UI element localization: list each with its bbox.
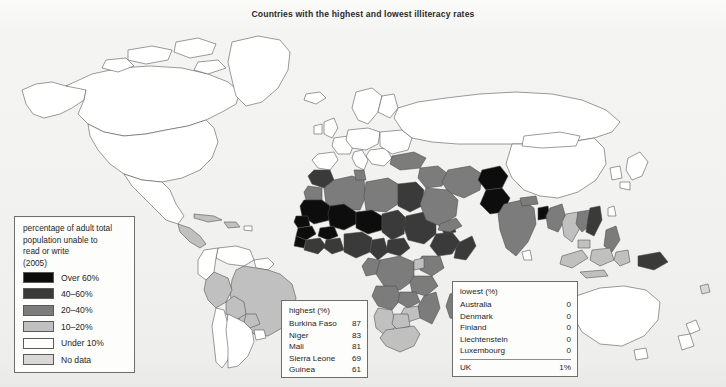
table-row: Australia 0 [460,299,571,311]
table-row: Finland 0 [460,322,571,334]
country-value: 61 [352,364,361,376]
legend-swatch-40-60 [23,288,54,299]
country-scandinavia [352,88,382,124]
country-name: Niger [289,330,308,342]
table-lowest-rates: lowest (%) Australia 0 Denmark 0 Finland… [452,281,578,377]
country-iceland [304,92,326,104]
country-senegal [294,216,310,228]
legend-label-no-data: No data [61,355,91,365]
table-lowest-header: lowest (%) [460,287,571,296]
country-canada-arctic-1 [128,46,172,64]
country-russia [394,92,620,144]
country-value: 0 [566,299,571,311]
legend-item-20-40: 20–40% [23,302,127,318]
legend-label-under-10: Under 10% [61,338,104,348]
legend-label-10-20: 10–20% [61,322,93,332]
country-tasmania [634,348,648,360]
country-name: Australia [460,299,492,311]
country-zambia [398,292,420,308]
country-egypt [398,182,424,212]
country-japan [626,152,648,180]
map-legend: percentage of adult total population una… [14,216,135,373]
country-pacific-islands [700,284,710,294]
country-name: Burkina Faso [289,318,337,330]
legend-label-over-60: Over 60% [61,273,99,283]
table-row: Denmark 0 [460,311,571,323]
country-turkey [390,152,426,170]
table-row: Sierra Leone 69 [289,353,361,365]
country-sri-lanka [522,250,532,260]
country-value: 87 [352,318,361,330]
country-indonesia-java [580,270,608,278]
legend-heading: percentage of adult total population una… [23,223,127,269]
country-italy [352,150,368,170]
country-germany-poland [346,128,380,150]
legend-item-40-60: 40–60% [23,286,127,302]
legend-heading-year: (2005) [23,258,127,270]
legend-heading-line-2: population unable to [23,235,127,247]
table-row-footer: UK 1% [460,362,571,374]
table-row: Guinea 61 [289,364,361,376]
table-highest-rates: highest (%) Burkina Faso 87 Niger 83 Mal… [281,300,368,378]
legend-swatch-under-10 [23,338,54,349]
country-uruguay [254,330,266,340]
legend-label-20-40: 20–40% [61,305,93,315]
legend-heading-line-1: percentage of adult total [23,223,127,235]
country-chad [382,210,406,240]
country-mozambique [418,292,440,324]
legend-item-under-10: Under 10% [23,335,127,351]
legend-swatch-over-60 [23,272,54,283]
country-central-african-republic [386,238,410,256]
country-central-america [178,224,206,248]
country-value: 83 [352,330,361,342]
country-nigeria [344,232,372,258]
country-indonesia-sumatra [560,250,588,268]
country-japan-south [620,182,630,190]
country-korea [610,166,622,180]
table-row: Burkina Faso 87 [289,318,361,330]
country-afghanistan [478,166,508,190]
country-hispaniola [224,222,240,228]
table-row: Luxembourg 0 [460,345,571,357]
country-papua-new-guinea [638,252,668,270]
country-greenland [228,36,290,106]
illiteracy-world-map-figure: Countries with the highest and lowest il… [0,0,726,387]
country-australia [572,286,660,346]
legend-item-no-data: No data [23,351,127,367]
country-canada [66,66,240,136]
country-name: Sierra Leone [289,353,335,365]
legend-swatch-20-40 [23,305,54,316]
legend-swatch-no-data [23,354,54,365]
country-value: 0 [566,311,571,323]
country-iberia [312,152,338,170]
country-libya [364,178,398,212]
country-ivory-coast [304,238,326,254]
country-dr-congo [376,256,414,290]
country-malaysia [578,240,590,248]
table-highest-header: highest (%) [289,306,361,315]
legend-item-10-20: 10–20% [23,319,127,335]
country-canada-arctic-2 [174,38,216,58]
country-western-sahara [304,186,322,200]
country-indonesia-sulawesi [614,250,630,266]
country-indonesia-borneo [590,248,614,266]
country-uganda [414,258,424,270]
country-name: Luxembourg [460,345,505,357]
table-row: Mali 81 [289,341,361,353]
country-south-africa [380,326,420,352]
table-row: Liechtenstein 0 [460,334,571,346]
country-name: Guinea [289,364,315,376]
country-tunisia [354,170,366,180]
legend-item-over-60: Over 60% [23,269,127,285]
country-uk [324,118,338,138]
table-row: Niger 83 [289,330,361,342]
country-name: Denmark [460,311,493,323]
country-ghana [324,238,344,254]
country-caribbean-small [244,226,252,231]
country-name: UK [460,362,471,374]
legend-heading-line-3: read or write [23,246,127,258]
country-burkina-faso [318,226,338,240]
country-taiwan [608,206,616,216]
country-new-zealand-n [686,320,700,334]
country-nepal [520,196,538,206]
